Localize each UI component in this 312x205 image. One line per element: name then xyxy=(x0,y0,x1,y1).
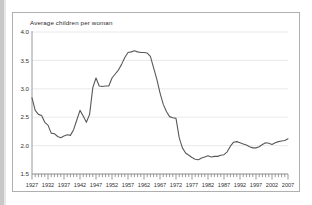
x-tick-label: 1947 xyxy=(90,182,102,188)
x-tick-label: 1927 xyxy=(26,182,38,188)
data-series-line xyxy=(32,51,288,160)
x-tick-label: 1977 xyxy=(186,182,198,188)
x-tick-label: 1982 xyxy=(202,182,214,188)
x-tick-label: 1967 xyxy=(154,182,166,188)
screenshot-root: Average children per woman 1.52.02.53.03… xyxy=(0,0,312,205)
y-tick-label: 4.0 xyxy=(20,28,29,35)
gridlines xyxy=(32,32,288,174)
x-tick-label: 2002 xyxy=(266,182,278,188)
x-tick-label: 1952 xyxy=(106,182,118,188)
x-tick-label: 1942 xyxy=(74,182,86,188)
y-tick-labels: 1.52.02.53.03.54.0 xyxy=(20,28,29,177)
x-tick-label: 1957 xyxy=(122,182,134,188)
x-tick-labels: 1927193219371942194719521957196219671972… xyxy=(26,182,294,188)
y-tick-label: 2.0 xyxy=(20,142,29,149)
x-tick-label: 1962 xyxy=(138,182,150,188)
x-tick-label: 1932 xyxy=(42,182,54,188)
y-tick-label: 3.0 xyxy=(20,85,29,92)
x-tick-marks xyxy=(32,174,288,180)
x-tick-label: 1987 xyxy=(218,182,230,188)
x-tick-label: 1997 xyxy=(250,182,262,188)
x-tick-label: 1992 xyxy=(234,182,246,188)
x-tick-label: 1972 xyxy=(170,182,182,188)
y-tick-label: 3.5 xyxy=(20,57,29,64)
page-edge-shadow xyxy=(4,0,6,205)
x-tick-label: 1937 xyxy=(58,182,70,188)
y-tick-label: 1.5 xyxy=(20,170,29,177)
x-tick-label: 2007 xyxy=(282,182,294,188)
line-chart: 1.52.02.53.03.54.0 192719321937194219471… xyxy=(13,13,301,193)
series-line-average-children-per-woman xyxy=(32,51,288,160)
y-tick-label: 2.5 xyxy=(20,113,29,120)
figure-panel: Average children per woman 1.52.02.53.03… xyxy=(12,12,300,192)
